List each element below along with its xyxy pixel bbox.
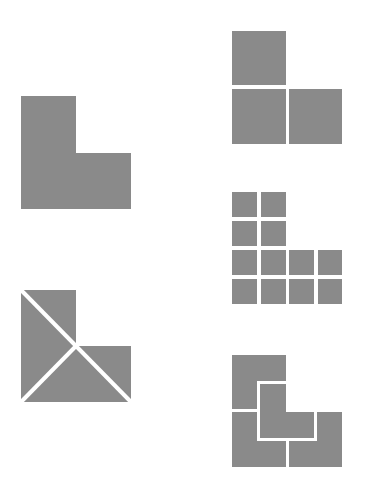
- solid-L-shape: [21, 96, 131, 209]
- L-into-twelve-squares-figure: [232, 192, 342, 304]
- small-square-piece: [261, 192, 286, 217]
- small-square-piece: [232, 221, 257, 246]
- small-L-middle: [260, 384, 314, 438]
- square-piece: [289, 89, 342, 144]
- L-into-three-triangles-figure: [21, 290, 131, 402]
- small-square-piece: [232, 250, 257, 275]
- small-square-piece: [261, 279, 286, 304]
- small-square-piece: [289, 250, 314, 275]
- small-square-piece: [261, 221, 286, 246]
- L-into-four-Ls-figure: [232, 355, 342, 467]
- square-piece: [232, 89, 286, 144]
- small-square-piece: [318, 279, 342, 304]
- small-square-piece: [232, 192, 257, 217]
- square-piece: [232, 31, 286, 85]
- L-into-three-squares-figure: [232, 31, 342, 144]
- small-square-piece: [261, 250, 286, 275]
- solid-L-figure: [21, 96, 131, 209]
- diagram-canvas: [0, 0, 365, 496]
- small-square-piece: [318, 250, 342, 275]
- small-square-piece: [289, 279, 314, 304]
- small-square-piece: [232, 279, 257, 304]
